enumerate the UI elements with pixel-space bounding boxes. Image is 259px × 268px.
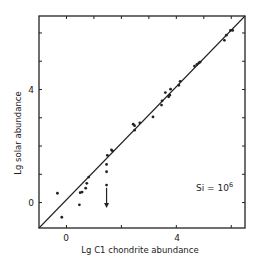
chart-svg: 0 4 0 4 Lg C1 chondrite abundance Lg sol…	[0, 0, 259, 268]
annotation-superscript: 6	[229, 181, 233, 189]
data-point	[177, 84, 180, 87]
data-point	[84, 187, 87, 190]
data-point	[179, 80, 182, 83]
x-tick-label-0: 0	[63, 233, 69, 243]
x-tick-label-4: 4	[174, 233, 180, 243]
y-tick-label-4: 4	[28, 85, 34, 95]
data-point	[152, 116, 155, 119]
y-tick-label-0: 0	[28, 198, 34, 208]
data-point	[56, 192, 59, 195]
data-point	[106, 154, 109, 157]
data-point	[133, 124, 136, 127]
data-point	[81, 191, 84, 194]
data-point	[193, 65, 196, 68]
arrow-head-icon	[104, 203, 109, 208]
x-axis-label: Lg C1 chondrite abundance	[81, 245, 198, 255]
data-point	[168, 94, 171, 97]
data-point	[111, 150, 114, 153]
data-point	[161, 99, 164, 102]
data-point	[105, 163, 108, 166]
data-point	[169, 88, 172, 91]
data-point	[225, 34, 228, 37]
scatter-chart: 0 4 0 4 Lg C1 chondrite abundance Lg sol…	[0, 0, 259, 268]
si-normalization-annotation: Si = 106	[196, 181, 233, 193]
data-point	[87, 176, 90, 179]
data-point	[85, 182, 88, 185]
data-point	[199, 61, 202, 64]
data-point	[231, 29, 234, 32]
data-point	[78, 203, 81, 206]
data-point	[223, 39, 226, 42]
data-point	[133, 129, 136, 132]
data-point	[138, 121, 141, 124]
y-axis-label: Lg solar abundance	[13, 91, 23, 175]
data-point	[60, 216, 63, 219]
data-point	[164, 91, 167, 94]
reference-line-y-equals-x	[39, 16, 245, 228]
data-point	[160, 104, 163, 107]
diagonal-line	[39, 16, 245, 228]
data-point	[105, 184, 108, 187]
upper-limit-arrow-icon	[104, 188, 109, 208]
data-point	[105, 170, 108, 173]
annotation-main: Si = 10	[196, 183, 229, 193]
